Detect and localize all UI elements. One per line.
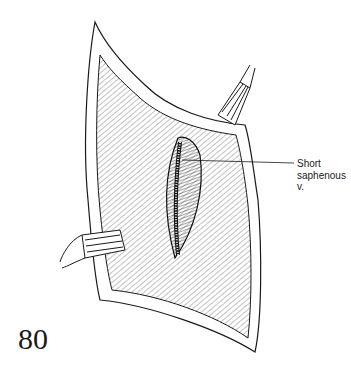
label-line-2: saphenous bbox=[297, 170, 346, 182]
label-line-1: Short bbox=[297, 158, 346, 170]
label-line-3: v. bbox=[297, 181, 346, 193]
short-saphenous-vein-label: Short saphenous v. bbox=[297, 158, 346, 193]
figure-number: 80 bbox=[18, 322, 48, 356]
retractor-top bbox=[218, 65, 255, 125]
